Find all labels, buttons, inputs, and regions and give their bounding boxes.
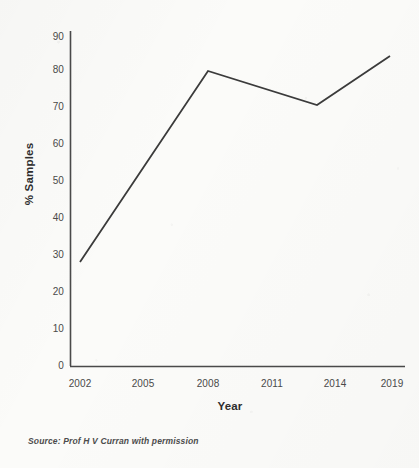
y-tick-label-90: 90 [36, 31, 64, 42]
x-tick-label-2002: 2002 [57, 378, 103, 389]
line-chart-figure: 0 10 20 30 40 50 60 70 80 90 2002 2005 2… [0, 0, 419, 468]
x-axis-title: Year [60, 400, 400, 412]
y-tick-label-20: 20 [36, 286, 64, 297]
x-tick-label-2019: 2019 [369, 378, 415, 389]
y-tick-label-60: 60 [36, 138, 64, 149]
y-tick-label-80: 80 [36, 64, 64, 75]
x-tick-label-2014: 2014 [312, 378, 358, 389]
y-tick-label-0: 0 [36, 360, 64, 371]
y-tick-label-30: 30 [36, 249, 64, 260]
y-tick-label-10: 10 [36, 323, 64, 334]
x-tick-label-2011: 2011 [249, 378, 295, 389]
x-tick-label-2008: 2008 [185, 378, 231, 389]
source-attribution-note: Source: Prof H V Curran with permission [28, 436, 199, 446]
y-tick-label-40: 40 [36, 212, 64, 223]
data-line-percent-samples [80, 56, 390, 262]
x-tick-label-2005: 2005 [120, 378, 166, 389]
y-tick-label-50: 50 [36, 175, 64, 186]
y-axis-title: % Samples [23, 119, 35, 229]
y-tick-label-70: 70 [36, 101, 64, 112]
